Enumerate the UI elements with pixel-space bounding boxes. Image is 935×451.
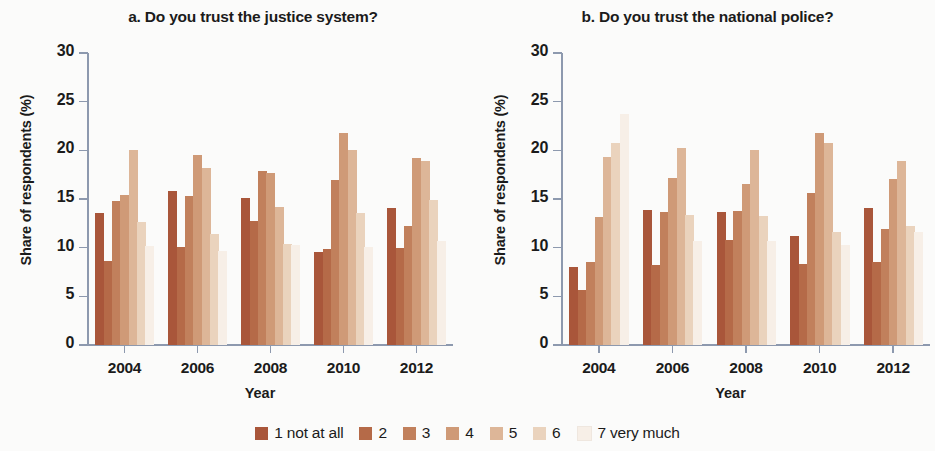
panel-a-plot-area: 05101520253020042006200820102012 — [88, 53, 453, 345]
panel-b-y-tick-mark — [553, 296, 562, 298]
panel-b-x-tick-label: 2008 — [712, 359, 780, 377]
panel-b-x-tick-label: 2004 — [565, 359, 633, 377]
panel-a-title: a. Do you trust the justice system? — [0, 8, 470, 26]
panel-a-y-tick-label: 10 — [34, 237, 74, 255]
panel-a-bar-group — [95, 53, 153, 345]
panel-a-bar-group — [314, 53, 372, 345]
legend-swatch-icon — [577, 426, 592, 441]
panel-a-y-tick-mark — [79, 101, 88, 103]
panel-a-y-tick-mark — [79, 150, 88, 152]
panel-a-x-tick-label: 2010 — [310, 359, 378, 377]
panel-a-y-tick-mark — [79, 198, 88, 200]
panel-a-x-tick-label: 2012 — [383, 359, 451, 377]
legend-swatch-icon — [255, 427, 268, 440]
panel-b-y-tick-label: 5 — [508, 285, 548, 303]
panel-b-y-tick-label: 20 — [508, 139, 548, 157]
panel-a-bar-group — [387, 53, 445, 345]
panel-a-y-tick-mark — [79, 296, 88, 298]
panel-a-bar — [437, 241, 446, 345]
panel-a-bar-group — [241, 53, 299, 345]
panel-a-y-tick-label: 20 — [34, 139, 74, 157]
panel-b-bar — [767, 241, 776, 345]
panel-b-bar-group — [569, 53, 628, 345]
panel-b-y-tick-mark — [553, 101, 562, 103]
panel-a-x-axis-label: Year — [0, 385, 470, 401]
panel-b-bar — [620, 114, 629, 345]
panel-a-x-tick-label: 2008 — [237, 359, 305, 377]
panel-a-x-tick-label: 2004 — [91, 359, 159, 377]
panel-b-bar-group — [790, 53, 849, 345]
panel-a-y-axis-label: Share of respondents (%) — [18, 50, 34, 310]
legend-item-label: 4 — [465, 424, 473, 442]
panel-a-x-tick-mark — [124, 345, 126, 353]
panel-b-plot-area: 05101520253020042006200820102012 — [562, 53, 930, 345]
panel-b-bar — [914, 232, 923, 345]
panel-b-x-tick-mark — [672, 345, 674, 353]
panel-b-y-tick-mark — [553, 150, 562, 152]
panel-b-x-tick-mark — [745, 345, 747, 353]
legend-item[interactable]: 2 — [359, 424, 386, 442]
legend-item-label: 3 — [422, 424, 430, 442]
panel-a-y-tick-label: 30 — [34, 42, 74, 60]
panel-b-y-tick-label: 10 — [508, 237, 548, 255]
panel-b-x-tick-mark — [598, 345, 600, 353]
legend-item-label: 6 — [552, 424, 560, 442]
legend-item[interactable]: 4 — [446, 424, 473, 442]
panel-b-y-tick-label: 30 — [508, 42, 548, 60]
panel-a-x-tick-mark — [197, 345, 199, 353]
panel-b-bar-group — [643, 53, 702, 345]
legend-swatch-icon — [533, 427, 546, 440]
panel-b-x-tick-label: 2006 — [638, 359, 706, 377]
panel-a-x-tick-label: 2006 — [164, 359, 232, 377]
panel-b-y-tick-mark — [553, 247, 562, 249]
panel-b-x-tick-mark — [819, 345, 821, 353]
legend-item[interactable]: 6 — [533, 424, 560, 442]
panel-b-bar-group — [864, 53, 923, 345]
panel-b-y-tick-label: 0 — [508, 334, 548, 352]
panel-b-x-axis-label: Year — [470, 385, 935, 401]
panel-b-y-tick-label: 15 — [508, 188, 548, 206]
panel-a-bar — [145, 246, 154, 345]
panel-b-y-tick-mark — [553, 198, 562, 200]
legend-swatch-icon — [359, 427, 372, 440]
panel-a-bar — [218, 251, 227, 345]
panel-a-y-tick-label: 0 — [34, 334, 74, 352]
panel-a: a. Do you trust the justice system? Shar… — [0, 0, 470, 420]
panel-b-x-tick-label: 2010 — [786, 359, 854, 377]
panel-a-y-tick-label: 15 — [34, 188, 74, 206]
panel-a-y-tick-label: 5 — [34, 285, 74, 303]
legend-item[interactable]: 5 — [490, 424, 517, 442]
chart-legend: 1 not at all234567 very much — [0, 424, 935, 442]
panel-b-y-tick-label: 25 — [508, 91, 548, 109]
panel-a-bar — [364, 247, 373, 345]
panel-b: b. Do you trust the national police? Sha… — [470, 0, 935, 420]
panel-a-x-tick-mark — [343, 345, 345, 353]
panel-b-bar — [693, 241, 702, 345]
panel-a-x-tick-mark — [270, 345, 272, 353]
legend-item[interactable]: 1 not at all — [255, 424, 343, 442]
panel-a-y-tick-mark — [79, 344, 88, 346]
legend-item-label: 1 not at all — [274, 424, 343, 442]
legend-item[interactable]: 3 — [403, 424, 430, 442]
panel-b-bar — [841, 245, 850, 345]
panel-b-y-tick-mark — [553, 344, 562, 346]
legend-item-label: 2 — [378, 424, 386, 442]
figure-container: a. Do you trust the justice system? Shar… — [0, 0, 935, 451]
panel-b-title: b. Do you trust the national police? — [470, 8, 935, 26]
legend-swatch-icon — [446, 427, 459, 440]
panel-b-bar-group — [717, 53, 776, 345]
panel-a-y-tick-mark — [79, 52, 88, 54]
panel-b-x-tick-mark — [892, 345, 894, 353]
legend-item-label: 7 very much — [598, 424, 680, 442]
panel-a-y-tick-label: 25 — [34, 91, 74, 109]
panel-b-y-tick-mark — [553, 52, 562, 54]
panel-b-y-axis-label: Share of respondents (%) — [492, 50, 508, 310]
legend-item[interactable]: 7 very much — [577, 424, 680, 442]
panel-a-y-tick-mark — [79, 247, 88, 249]
legend-swatch-icon — [403, 427, 416, 440]
legend-item-label: 5 — [509, 424, 517, 442]
panel-b-x-tick-label: 2012 — [859, 359, 927, 377]
legend-swatch-icon — [490, 427, 503, 440]
panel-a-bar — [291, 245, 300, 345]
panel-a-x-tick-mark — [416, 345, 418, 353]
